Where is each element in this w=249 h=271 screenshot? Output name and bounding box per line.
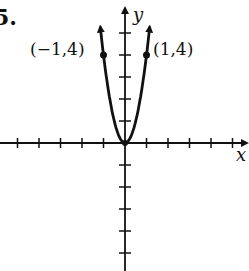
point-label-right: (1,4) xyxy=(153,41,193,58)
problem-number: 5. xyxy=(0,6,17,28)
point-marker xyxy=(143,52,150,59)
y-axis-label: y xyxy=(133,6,143,24)
point-marker xyxy=(100,52,107,59)
point-label-left: (−1,4) xyxy=(30,41,85,58)
x-axis-label: x xyxy=(236,146,246,164)
